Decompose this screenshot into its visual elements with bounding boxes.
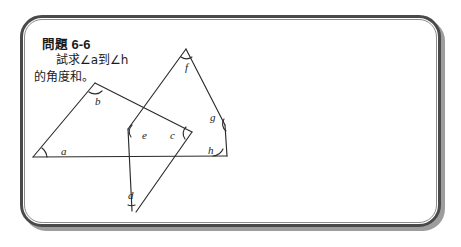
figure-angle-labels: a b c d e f g h bbox=[61, 61, 216, 201]
line-f-to-e bbox=[128, 49, 186, 129]
angle-arc-h bbox=[213, 149, 223, 156]
angle-label-g: g bbox=[210, 111, 216, 123]
angle-arc-b bbox=[89, 91, 102, 94]
angle-arc-a bbox=[42, 148, 47, 157]
angle-label-e: e bbox=[142, 129, 147, 141]
angle-label-c: c bbox=[170, 129, 175, 141]
screenshot-canvas: 問題6-6 試求∠a到∠h 的角度和。 bbox=[0, 0, 461, 247]
angle-label-d: d bbox=[128, 189, 134, 201]
angle-label-f: f bbox=[185, 61, 190, 73]
line-f-to-g bbox=[186, 49, 225, 125]
problem-card-content: 問題6-6 試求∠a到∠h 的角度和。 bbox=[20, 15, 441, 227]
geometry-figure: a b c d e f g h bbox=[20, 15, 441, 227]
angle-label-a: a bbox=[61, 145, 67, 157]
figure-strokes bbox=[33, 49, 227, 212]
line-c-to-d bbox=[136, 132, 192, 212]
angle-label-h: h bbox=[208, 144, 214, 156]
angle-label-b: b bbox=[95, 95, 101, 107]
